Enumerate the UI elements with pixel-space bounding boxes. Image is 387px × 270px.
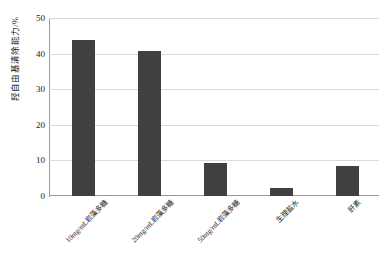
- gridline: [49, 125, 379, 126]
- y-tick-label: 20: [19, 121, 45, 130]
- plot-area: [49, 18, 379, 196]
- bar[interactable]: [204, 163, 227, 196]
- y-tick-label: 40: [19, 50, 45, 59]
- x-tick-label: 10mg/mL岩藻多糖: [62, 199, 111, 248]
- x-tick-label: 生理盐水: [270, 199, 302, 231]
- y-tick-label: 10: [19, 156, 45, 165]
- x-axis-tick-labels: 10mg/mL岩藻多糖 20mg/mL岩藻多糖 50mg/mL岩藻多糖 生理盐水…: [49, 197, 379, 269]
- gridline: [49, 18, 379, 19]
- gridline: [49, 89, 379, 90]
- bar[interactable]: [270, 188, 293, 196]
- bar[interactable]: [138, 51, 161, 196]
- gridline: [49, 160, 379, 161]
- y-tick-label: 30: [19, 85, 45, 94]
- x-tick-label: 50mg/mL岩藻多糖: [194, 199, 243, 248]
- x-tick-label: 20mg/mL岩藻多糖: [128, 199, 177, 248]
- bar-chart: 羟自由基清除能力/% 50 40 30 20 10 0 10mg/mL岩藻多糖 …: [0, 0, 387, 270]
- y-tick-label: 0: [19, 192, 45, 201]
- x-tick-label: 肝素: [343, 199, 364, 220]
- bar[interactable]: [336, 166, 359, 196]
- y-axis-tick-labels: 50 40 30 20 10 0: [15, 18, 45, 196]
- bar[interactable]: [72, 40, 95, 196]
- gridline: [49, 54, 379, 55]
- y-tick-label: 50: [19, 14, 45, 23]
